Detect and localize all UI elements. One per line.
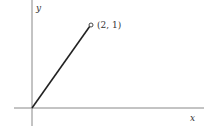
x-axis-label: x xyxy=(190,113,195,123)
y-axis-label: y xyxy=(35,3,42,13)
point-marker xyxy=(89,23,93,27)
vector-segment xyxy=(32,26,90,108)
coordinate-diagram: (2, 1) y x xyxy=(0,0,214,135)
point-label: (2, 1) xyxy=(97,20,121,30)
